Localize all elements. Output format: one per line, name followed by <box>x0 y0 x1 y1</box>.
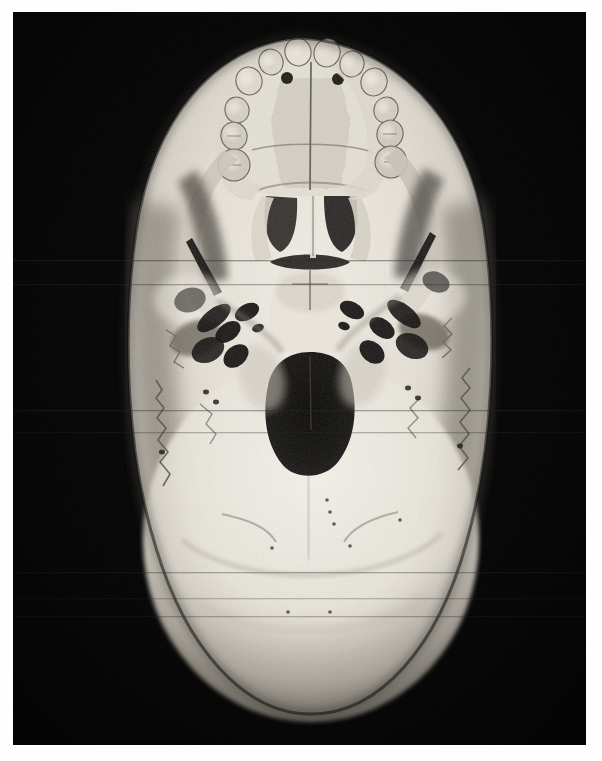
vignette <box>13 12 586 745</box>
skull-photograph <box>13 12 586 745</box>
page-canvas <box>0 0 602 761</box>
skull-illustration <box>13 12 586 745</box>
